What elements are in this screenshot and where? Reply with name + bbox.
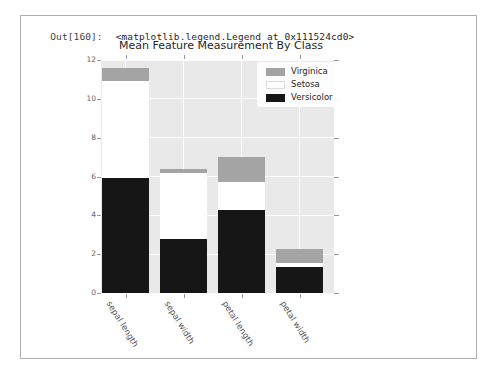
ytick-label: 12 — [74, 56, 96, 64]
ytick-label: 0 — [74, 289, 96, 297]
xtick-mark-bottom — [184, 294, 185, 298]
bar-segment-versicolor-3 — [276, 267, 323, 293]
bar-segment-setosa-3 — [276, 263, 323, 268]
ytick-label: 10 — [74, 95, 96, 103]
bar-segment-virginica-2 — [218, 157, 265, 182]
legend-row: Versicolor — [257, 91, 363, 104]
xtick-label: sepal length — [104, 299, 140, 349]
xtick-mark-top — [184, 55, 185, 59]
ytick-label: 2 — [74, 250, 96, 258]
legend-swatch-versicolor — [266, 94, 285, 102]
legend-row: Setosa — [257, 78, 363, 91]
ytick-mark-left — [97, 215, 101, 216]
bar-segment-setosa-1 — [160, 173, 207, 240]
ytick-mark-right — [334, 215, 339, 216]
ytick-mark-left — [97, 293, 101, 294]
legend-swatch-setosa — [266, 81, 285, 89]
ytick-mark-right — [334, 177, 339, 178]
legend-swatch-virginica — [266, 68, 285, 76]
ytick-mark-right — [334, 60, 339, 61]
xtick-label: petal width — [278, 299, 312, 345]
bar-segment-setosa-2 — [218, 182, 265, 210]
xtick-mark-bottom — [242, 294, 243, 298]
xtick-label: sepal width — [162, 299, 196, 346]
legend-label: Virginica — [291, 67, 328, 76]
legend-label: Versicolor — [291, 93, 333, 102]
legend-row: Virginica — [257, 65, 363, 78]
matplotlib-figure: Mean Feature Measurement By Class 024681… — [0, 0, 499, 383]
bar-segment-setosa-0 — [102, 81, 149, 178]
chart-title: Mean Feature Measurement By Class — [101, 39, 341, 52]
bar-segment-virginica-3 — [276, 249, 323, 263]
bar-segment-virginica-0 — [102, 68, 149, 81]
ytick-mark-right — [334, 293, 339, 294]
ytick-label: 6 — [74, 173, 96, 181]
legend-entries: VirginicaSetosaVersicolor — [257, 65, 363, 104]
ytick-mark-right — [334, 138, 339, 139]
bar-segment-versicolor-2 — [218, 210, 265, 293]
xtick-label: petal length — [220, 299, 256, 348]
ytick-label: 8 — [74, 134, 96, 142]
ytick-mark-left — [97, 177, 101, 178]
bar-segment-versicolor-1 — [160, 239, 207, 293]
jupyter-output-screenshot: Out[160]:<matplotlib.legend.Legend at 0x… — [0, 0, 499, 383]
xtick-mark-bottom — [126, 294, 127, 298]
ytick-mark-left — [97, 138, 101, 139]
bar-segment-virginica-1 — [160, 169, 207, 173]
ytick-mark-left — [97, 60, 101, 61]
ytick-mark-left — [97, 254, 101, 255]
ytick-label: 4 — [74, 211, 96, 219]
legend-label: Setosa — [291, 80, 320, 89]
bar-segment-versicolor-0 — [102, 178, 149, 293]
xtick-mark-top — [300, 55, 301, 59]
xtick-mark-top — [242, 55, 243, 59]
ytick-mark-left — [97, 99, 101, 100]
legend: VirginicaSetosaVersicolor — [257, 62, 363, 107]
xtick-mark-top — [126, 55, 127, 59]
ytick-mark-right — [334, 254, 339, 255]
xtick-mark-bottom — [300, 294, 301, 298]
